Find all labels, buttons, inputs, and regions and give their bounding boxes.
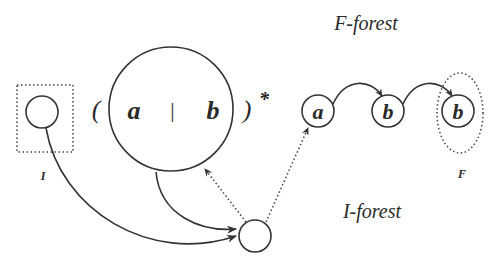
i-forest-title: I-forest [342, 200, 402, 223]
f-forest-chain: a b b F [302, 73, 483, 181]
regex-to-merge-arrow [156, 172, 236, 229]
regex-symbol-b: b [207, 96, 220, 125]
kleene-star: * [259, 88, 270, 110]
merge-node [239, 220, 271, 252]
alternation-bar: | [169, 97, 175, 122]
forest-diagram: I ( a | b ) * a b b F F-forest I-forest [0, 0, 501, 266]
forest-node-b2-label: b [453, 99, 464, 124]
forest-node-b1-label: b [383, 99, 394, 124]
regex-group: ( a | b ) * [92, 47, 270, 171]
initial-state-node [26, 96, 58, 128]
final-label: F [457, 167, 466, 181]
merge-to-regex-dotted-arrow [205, 169, 246, 222]
initial-state-group: I [17, 85, 73, 183]
initial-dotted-box [17, 85, 73, 152]
initial-label: I [40, 169, 47, 183]
f-forest-title: F-forest [333, 12, 398, 35]
close-paren: ) [241, 95, 252, 124]
open-paren: ( [92, 95, 102, 124]
initial-to-merge-arrow [46, 128, 236, 244]
forest-node-a-label: a [313, 99, 324, 124]
regex-symbol-a: a [128, 96, 141, 125]
merge-to-forest-dotted-arrow [266, 128, 308, 222]
